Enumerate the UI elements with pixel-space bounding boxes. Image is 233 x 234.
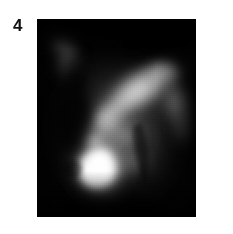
scan-image-panel xyxy=(37,19,196,217)
panel-number-label: 4 xyxy=(13,16,29,36)
scan-image-canvas xyxy=(37,19,196,217)
figure-root: 4 xyxy=(0,0,233,234)
